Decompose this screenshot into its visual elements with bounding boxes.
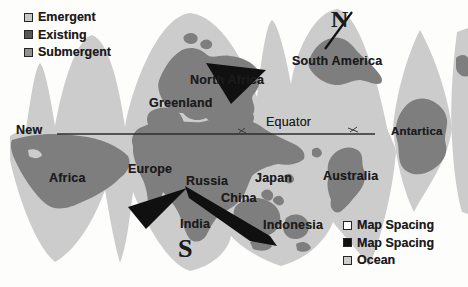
label-japan: Japan bbox=[255, 172, 292, 185]
map-spacing-black-label: Map Spacing bbox=[357, 237, 434, 250]
label-australia: Australia bbox=[323, 170, 378, 183]
label-north-africa: North Africa bbox=[190, 74, 264, 87]
compass-n: N bbox=[331, 7, 349, 31]
legend-item-submergent: Submergent bbox=[24, 46, 111, 59]
compass-s: S bbox=[178, 236, 193, 262]
map-figure: GreenlandNorth AfricaSouth AmericaNewEqu… bbox=[0, 0, 468, 287]
ocean-label: Ocean bbox=[357, 254, 395, 267]
emergent-label: Emergent bbox=[38, 11, 96, 24]
map-spacing-white-swatch bbox=[343, 221, 352, 230]
legend-item-existing: Existing bbox=[24, 29, 111, 42]
label-south-america: South America bbox=[292, 55, 382, 68]
legend-item-map-spacing-black: Map Spacing bbox=[343, 237, 434, 250]
label-china: China bbox=[221, 192, 257, 205]
label-russia: Russia bbox=[186, 175, 228, 188]
legend-item-ocean: Ocean bbox=[343, 254, 434, 267]
map-spacing-white-label: Map Spacing bbox=[357, 219, 434, 232]
submergent-label: Submergent bbox=[38, 46, 111, 59]
label-antartica: Antartica bbox=[391, 126, 443, 138]
ocean-swatch bbox=[343, 256, 352, 265]
label-india: India bbox=[180, 218, 210, 231]
label-europe: Europe bbox=[128, 163, 172, 176]
legend-item-map-spacing-white: Map Spacing bbox=[343, 219, 434, 232]
legend-item-emergent: Emergent bbox=[24, 11, 111, 24]
map-spacing-black-swatch bbox=[343, 238, 352, 247]
emergent-swatch bbox=[24, 13, 33, 22]
existing-label: Existing bbox=[38, 29, 87, 42]
submergent-swatch bbox=[24, 48, 33, 57]
label-equator: Equator bbox=[266, 116, 311, 129]
label-greenland: Greenland bbox=[149, 97, 213, 110]
existing-swatch bbox=[24, 30, 33, 39]
legend-bottom: Map Spacing Map Spacing Ocean bbox=[343, 219, 434, 267]
label-new: New bbox=[16, 124, 42, 137]
label-indonesia: Indonesia bbox=[263, 219, 323, 232]
label-africa: Africa bbox=[49, 172, 86, 185]
legend-top: Emergent Existing Submergent bbox=[24, 11, 111, 59]
